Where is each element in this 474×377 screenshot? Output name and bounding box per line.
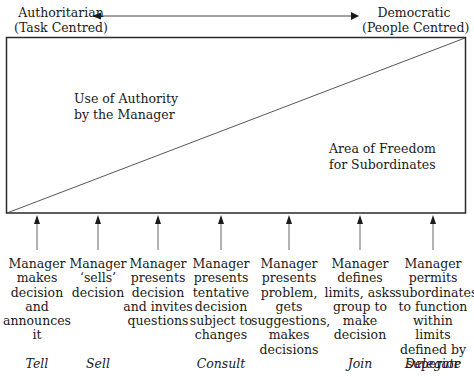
use-of-authority-label: Use of Authority by the Manager — [74, 91, 178, 123]
use-of-authority-line2: by the Manager — [74, 107, 178, 123]
behaviour-line: Manager — [251, 257, 327, 271]
arrowhead-up-icons — [34, 215, 436, 224]
behaviour-line: subordinates — [395, 286, 471, 300]
behaviour-line: defined by — [395, 343, 471, 357]
behaviour-line: suggestions, — [251, 314, 327, 328]
behaviour-line: limits, asks — [322, 286, 398, 300]
behaviour-line: makes — [251, 328, 327, 342]
behaviour-line: Manager — [322, 257, 398, 271]
behaviour-description: Managerdefineslimits, asksgroup tomakede… — [322, 257, 398, 343]
behaviour-line: Manager — [395, 257, 471, 271]
leadership-style-sell: Sell — [60, 356, 136, 371]
behaviour-line: subject to — [183, 314, 259, 328]
leadership-style-delegate: Delegate — [395, 356, 471, 371]
use-of-authority-line1: Use of Authority — [74, 91, 178, 107]
behaviour-line: announces — [0, 314, 75, 328]
authoritarian-label: Authoritarian (Task Centred) — [14, 5, 108, 35]
democratic-label: Democratic (People Centred) — [362, 5, 466, 35]
people-centred-subtitle: (People Centred) — [362, 20, 466, 35]
diagonal-divider — [7, 38, 465, 213]
leadership-style-join: Join — [322, 356, 398, 371]
behaviour-line: to function — [395, 300, 471, 314]
behaviour-line: decision — [183, 300, 259, 314]
behaviour-description: Managerpresentstentativedecisionsubject … — [183, 257, 259, 343]
behaviour-line: decision — [322, 328, 398, 342]
behaviour-description: Managerpermitssubordinatesto functionwit… — [395, 257, 471, 371]
democratic-title: Democratic — [362, 5, 466, 20]
area-of-freedom-line1: Area of Freedom — [329, 141, 436, 157]
behaviour-line: within limits — [395, 314, 471, 343]
behaviour-description: Managerpresentsproblem,getssuggestions,m… — [251, 257, 327, 357]
behaviour-line: presents — [251, 271, 327, 285]
behaviour-line: it — [0, 328, 75, 342]
behaviour-line: changes — [183, 328, 259, 342]
behaviour-line: and — [0, 300, 75, 314]
behaviour-line: group to — [322, 300, 398, 314]
behaviour-line: gets — [251, 300, 327, 314]
area-of-freedom-line2: for Subordinates — [329, 157, 436, 173]
behaviour-line: Manager — [183, 257, 259, 271]
behaviour-line: problem, — [251, 286, 327, 300]
behaviour-line: decisions — [251, 343, 327, 357]
behaviour-arrows — [37, 222, 433, 250]
leadership-style-consult: Consult — [183, 356, 259, 371]
behaviour-line: presents — [183, 271, 259, 285]
area-of-freedom-label: Area of Freedom for Subordinates — [329, 141, 436, 173]
behaviour-line: permits — [395, 271, 471, 285]
behaviour-line: defines — [322, 271, 398, 285]
task-centred-subtitle: (Task Centred) — [14, 20, 108, 35]
authoritarian-title: Authoritarian — [14, 5, 108, 20]
behaviour-line: tentative — [183, 286, 259, 300]
behaviour-line: make — [322, 314, 398, 328]
